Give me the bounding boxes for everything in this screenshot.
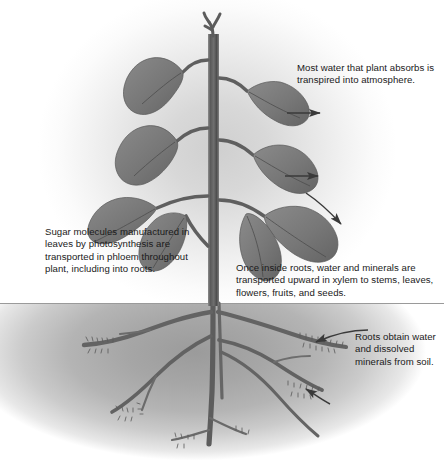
arrow-uptake-lower bbox=[306, 389, 330, 404]
arrow-transpiration-lower bbox=[306, 193, 341, 224]
callout-absorption: Roots obtain water and dissolved mineral… bbox=[355, 331, 437, 368]
plant-transport-diagram: Most water that plant absorbs is transpi… bbox=[0, 0, 444, 467]
callout-xylem: Once inside roots, water and minerals ar… bbox=[236, 262, 441, 299]
callout-phloem: Sugar molecules manufactured in leaves b… bbox=[45, 226, 210, 276]
callout-transpiration: Most water that plant absorbs is transpi… bbox=[297, 62, 437, 87]
